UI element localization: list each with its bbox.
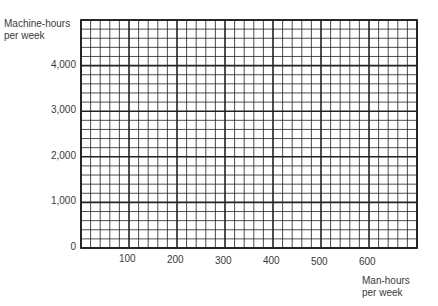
chart-grid — [0, 0, 438, 306]
